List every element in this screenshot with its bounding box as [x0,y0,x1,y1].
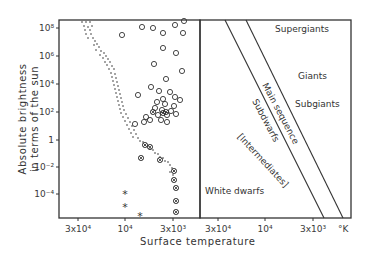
dot-marker [96,43,98,45]
dot-marker [116,96,118,98]
circle-marker [148,84,153,89]
y-axis-title: Absolute brightness in terms of the sun [17,63,40,174]
circle-marker [167,89,172,94]
circle-marker [181,18,186,23]
dot-marker [108,68,110,70]
y-tick-label: 10⁻² [34,162,54,172]
unit-label: °K [338,224,350,234]
x-tick-label: 3x10⁴ [205,224,232,234]
dot-marker [120,97,122,99]
circle-marker [177,97,182,102]
circle-marker [162,101,167,106]
dot-marker [132,136,134,138]
circle-marker [179,68,184,73]
dot-marker [85,33,87,35]
region-label: Giants [298,71,327,81]
circle-marker [168,108,173,113]
circle-marker [132,121,137,126]
dot-marker [126,124,128,126]
circle-marker [160,45,165,50]
dot-marker [111,65,113,67]
circle-marker [158,117,163,122]
y-tick-label: 10⁴ [39,79,54,89]
circle-marker [141,119,146,124]
dot-marker [118,104,120,106]
dot-marker [89,21,91,23]
dot-marker [106,64,108,66]
dot-marker [104,61,106,63]
dot-marker [119,108,121,110]
dot-marker [139,140,141,142]
dot-marker [90,33,92,35]
region-label: [Intermediates] [236,132,291,190]
asterisk-marker: * [122,188,128,201]
region-label: White dwarfs [205,186,264,196]
dot-marker [84,29,86,31]
y-tick-label: 10⁶ [39,51,54,61]
dot-marker [169,171,171,173]
circle-marker [139,24,144,29]
dot-marker [89,29,91,31]
dot-marker [119,93,121,95]
circle-marker [172,94,177,99]
dot-marker [87,37,89,39]
dot-marker [85,21,87,23]
circle-marker [135,92,140,97]
dot-marker [167,161,169,163]
circle-marker [163,76,168,81]
circle-marker [164,119,169,124]
dot-marker [93,44,95,46]
dot-marker [94,40,96,42]
y-tick-label: 1 [48,135,54,145]
dot-marker [115,92,117,94]
circle-marker [151,61,156,66]
dot-marker [116,81,118,83]
dot-marker [110,72,112,74]
dot-marker [120,112,122,114]
dot-marker [125,113,127,115]
dot-marker [98,46,100,48]
dot-marker [100,50,102,52]
x-tick-label: 10⁴ [117,224,132,234]
circle-marker [155,112,160,117]
dot-marker [114,73,116,75]
dot-marker [113,68,115,70]
dot-marker [129,121,131,123]
dot-marker [152,149,154,151]
circle-marker [173,111,178,116]
dot-marker [123,109,125,111]
data-points: *** [81,18,186,223]
dot-marker [107,58,109,60]
x-tick-label: 3x10⁴ [65,224,92,234]
region-label: Supergiants [275,24,329,34]
dot-marker [112,80,114,82]
hr-diagram: Absolute brightness in terms of the sun … [0,0,370,259]
dot-marker [128,128,130,130]
x-tick-label: 3x10³ [160,224,187,234]
asterisk-marker: * [122,201,128,214]
x-tick-label: 3x10³ [300,224,327,234]
circle-marker [171,103,176,108]
x-axis-title: Surface temperature [140,236,256,247]
dot-marker [137,137,139,139]
dot-marker [113,84,115,86]
dot-marker [102,57,104,59]
circle-marker [172,22,177,27]
circle-marker [119,32,124,37]
y-tick-label: 10⁻⁴ [34,189,54,199]
dot-marker [111,76,113,78]
x-tick-label: 10⁴ [257,224,272,234]
dot-marker [91,25,93,27]
asterisk-marker: * [137,210,143,223]
dot-marker [157,153,159,155]
circle-marker [147,117,152,122]
y-tick-label: 10⁸ [39,23,54,33]
dot-marker [117,85,119,87]
dot-marker [154,152,156,154]
dot-marker [109,61,111,63]
dot-marker [172,174,174,176]
dot-marker [124,120,126,122]
dot-marker [164,160,166,162]
dot-marker [117,100,119,102]
dot-marker [114,88,116,90]
